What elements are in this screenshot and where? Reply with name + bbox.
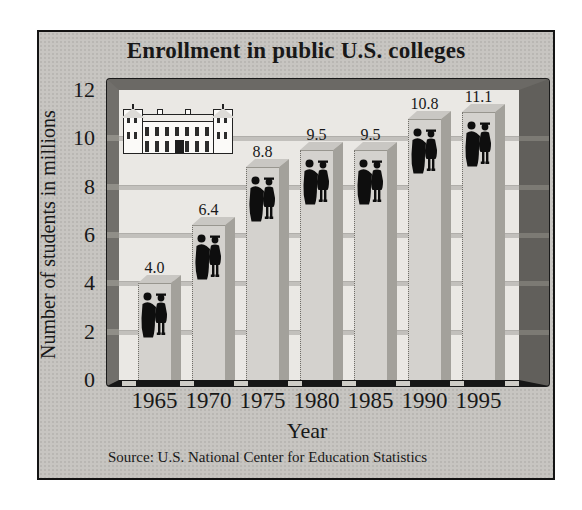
axis-notch-right <box>519 185 549 190</box>
axis-notch-left <box>107 135 119 141</box>
x-tick-label: 1995 <box>434 388 524 414</box>
x-axis-title: Year <box>107 418 507 444</box>
scanned-chart-page: Enrollment in public U.S. colleges <box>0 0 582 510</box>
axis-tick-nub <box>342 381 356 386</box>
axis-notch-left <box>107 329 119 335</box>
axis-notch-left <box>107 280 119 286</box>
bar-value-label: 6.4 <box>182 201 235 219</box>
axis-notch-right <box>519 281 549 286</box>
bar: 4.0 <box>138 275 181 380</box>
graduates-icon <box>356 159 385 205</box>
building-tower-windows <box>127 132 139 139</box>
graduates-icon <box>410 128 439 174</box>
building-chimney <box>185 109 191 115</box>
bar-value-label: 4.0 <box>128 259 181 277</box>
graduates-icon <box>140 292 169 338</box>
building-windows <box>145 127 211 136</box>
axis-tick-nub <box>505 381 519 386</box>
axis-tick-nub <box>288 381 302 386</box>
graduates-icon <box>464 121 493 167</box>
axis-notch-right <box>519 330 549 335</box>
axis-tick-nub <box>396 381 410 386</box>
axis-notch-left <box>107 184 119 190</box>
building-door <box>175 140 184 153</box>
axis-notch-right <box>519 233 549 238</box>
bar: 8.8 <box>246 159 289 380</box>
graduates-icon <box>302 159 331 205</box>
building-main-block <box>141 121 215 154</box>
source-note: Source: U.S. National Center for Educati… <box>108 449 427 466</box>
axis-tick-nub <box>450 381 464 386</box>
plot-area: 4.0 6.4 <box>107 79 549 386</box>
bar: 9.5 <box>354 142 397 380</box>
axis-notch-right <box>519 136 549 141</box>
bar: 9.5 <box>300 142 343 380</box>
y-tick-label: 6 <box>55 223 95 247</box>
building-tower-windows <box>217 132 229 139</box>
building-finial <box>222 104 224 109</box>
y-tick-label: 4 <box>55 271 95 295</box>
bar-value-label: 10.8 <box>398 95 451 113</box>
bar-value-label: 9.5 <box>344 126 397 144</box>
axis-tick-nub <box>180 381 194 386</box>
chart-title: Enrollment in public U.S. colleges <box>37 38 555 64</box>
bar-value-label: 9.5 <box>290 126 343 144</box>
graduates-icon <box>248 176 277 222</box>
y-tick-label: 10 <box>55 126 95 150</box>
axis-notch-left <box>107 232 119 238</box>
y-tick-label: 12 <box>55 78 95 102</box>
y-tick-label: 0 <box>55 368 95 392</box>
bar-value-label: 8.8 <box>236 143 289 161</box>
axis-tick-nub <box>234 381 248 386</box>
bar-value-label: 11.1 <box>452 88 505 106</box>
building-finial <box>132 104 134 109</box>
bar: 6.4 <box>192 217 235 380</box>
axis-tick-nub <box>122 381 136 386</box>
y-tick-label: 8 <box>55 175 95 199</box>
y-tick-label: 2 <box>55 320 95 344</box>
bar: 11.1 <box>462 104 505 380</box>
bar: 10.8 <box>408 111 451 380</box>
building-chimney <box>157 109 163 115</box>
college-building-icon <box>123 101 233 154</box>
graduates-icon <box>194 234 223 280</box>
